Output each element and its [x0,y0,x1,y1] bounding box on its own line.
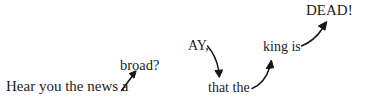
arrow-ay-to-that-the-icon [208,46,223,78]
arrow-that-the-to-king-is-icon [252,60,274,89]
text-fragment-broad: broad? [120,58,159,73]
text-fragment-ay: AY, [188,39,209,53]
diagram-canvas: Hear you the news a broad? AY, that the … [0,0,365,104]
text-fragment-hear-you-the-news-a: Hear you the news a [6,79,128,94]
text-fragment-that-the: that the [208,81,250,95]
text-fragment-king-is: king is [263,40,301,54]
arrow-king-is-to-dead-icon [302,22,327,47]
text-fragment-dead: DEAD! [306,3,353,18]
